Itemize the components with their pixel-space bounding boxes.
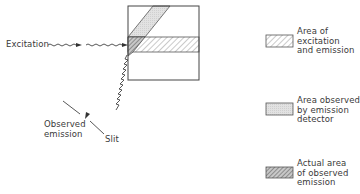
- legend-swatch-actual-area: [266, 167, 293, 178]
- excitation-label: Excitation: [6, 40, 49, 50]
- observed-emission-label: Observed emission: [44, 120, 86, 139]
- slit-label: Slit: [105, 135, 119, 145]
- legend-text: emission: [297, 178, 348, 188]
- sample-cell: [128, 6, 199, 80]
- legend-label-detector-area: Area observed by emission detector: [297, 96, 360, 125]
- detector-observed-band: [128, 6, 170, 37]
- legend-swatch-excitation-emission: [266, 35, 293, 47]
- legend-swatch-detector-area: [266, 103, 293, 115]
- observed-emission-line-2: emission: [44, 130, 86, 140]
- legend-label-excitation-emission: Area of excitation and emission: [297, 27, 355, 56]
- legend-text: and emission: [297, 46, 355, 56]
- legend-label-actual-area: Actual area of observed emission: [297, 159, 348, 188]
- emission-arrow: [85, 55, 128, 119]
- excitation-arrow: [48, 43, 128, 47]
- legend-text: detector: [297, 115, 360, 125]
